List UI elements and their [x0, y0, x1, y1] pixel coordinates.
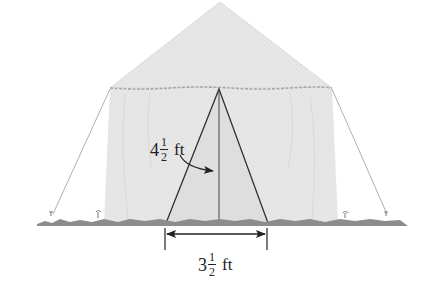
ground — [37, 219, 408, 226]
base-fraction: 1 2 — [208, 251, 216, 278]
height-fraction: 1 2 — [160, 136, 168, 163]
tent-roof — [110, 2, 332, 88]
guy-rope-left — [53, 89, 110, 214]
height-unit: ft — [174, 141, 184, 158]
guy-rope-right — [332, 89, 387, 214]
base-whole: 3 — [198, 256, 207, 274]
base-label: 3 1 2 ft — [198, 251, 232, 278]
base-denominator: 2 — [209, 265, 215, 278]
height-label: 4 1 2 ft — [150, 136, 184, 163]
height-denominator: 2 — [161, 150, 167, 163]
height-numerator: 1 — [160, 136, 168, 150]
base-unit: ft — [222, 256, 232, 273]
base-dimension — [165, 228, 267, 250]
height-whole: 4 — [150, 141, 159, 159]
base-numerator: 1 — [208, 251, 216, 265]
